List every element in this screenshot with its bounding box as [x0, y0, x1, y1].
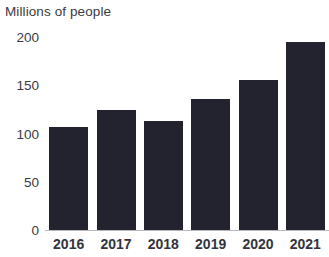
- x-axis-tick-label: 2020: [234, 234, 281, 254]
- bar: [49, 127, 88, 231]
- x-axis-tick-label: 2017: [92, 234, 139, 254]
- bar: [97, 110, 136, 231]
- x-axis-tick-label: 2021: [282, 234, 329, 254]
- bar: [286, 42, 325, 231]
- x-axis: 201620172018201920202021: [45, 234, 329, 257]
- bar: [191, 99, 230, 231]
- bar-series: [45, 0, 329, 231]
- x-axis-tick-label: 2019: [187, 234, 234, 254]
- x-axis-tick-label: 2018: [140, 234, 187, 254]
- y-axis-tick-label: 150: [0, 80, 39, 94]
- y-axis-tick-label: 200: [0, 31, 39, 45]
- bar: [144, 121, 183, 231]
- y-axis-tick-label: 50: [0, 176, 39, 190]
- y-axis-tick-label: 0: [0, 224, 39, 238]
- y-axis-tick-label: 100: [0, 128, 39, 142]
- x-axis-baseline: [45, 230, 329, 231]
- x-axis-tick-label: 2016: [45, 234, 92, 254]
- bar-chart: Millions of people 200150100500 20162017…: [0, 0, 329, 257]
- y-axis: 200150100500: [0, 0, 43, 257]
- bar: [239, 80, 278, 231]
